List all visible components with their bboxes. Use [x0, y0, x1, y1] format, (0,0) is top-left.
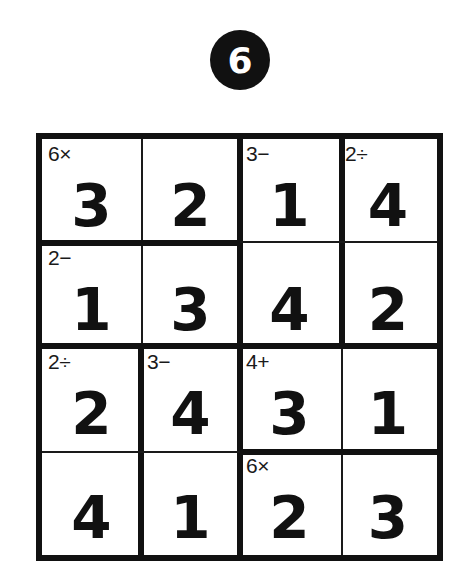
cage-clue: 2÷ — [345, 143, 367, 164]
cell-value: 2 — [339, 281, 437, 339]
cell-value: 3 — [339, 489, 437, 547]
cage-clue: 3− — [147, 351, 170, 372]
cell-value: 1 — [42, 281, 141, 339]
cage-clue: 3− — [246, 143, 269, 164]
cell-r1c3[interactable]: 3− 1 — [240, 139, 339, 243]
cage-clue: 4+ — [246, 351, 269, 372]
cell-value: 2 — [42, 385, 141, 443]
cage-border — [339, 139, 345, 347]
grid-line-thin — [42, 451, 240, 453]
cell-value: 3 — [240, 385, 339, 443]
cage-border — [240, 449, 437, 455]
cell-r1c4[interactable]: 2÷ 4 — [339, 139, 437, 243]
grid-line-thin — [341, 451, 343, 555]
cell-value: 1 — [141, 489, 240, 547]
cell-value: 2 — [240, 489, 339, 547]
cell-value: 4 — [339, 177, 437, 235]
cell-r2c3[interactable]: 4 — [240, 243, 339, 347]
puzzle-number: 6 — [227, 40, 252, 81]
grid-line-thin — [240, 241, 437, 243]
cell-r2c2[interactable]: 3 — [141, 243, 240, 347]
cage-clue: 2− — [48, 247, 71, 268]
grid-line-thin — [341, 347, 343, 451]
cell-r4c3[interactable]: 6× 2 — [240, 451, 339, 555]
cell-value: 3 — [42, 177, 141, 235]
cell-r2c4[interactable]: 2 — [339, 243, 437, 347]
cell-value: 4 — [42, 489, 141, 547]
cell-value: 4 — [240, 281, 339, 339]
cell-r3c2[interactable]: 3− 4 — [141, 347, 240, 451]
cell-r1c2[interactable]: 2 — [141, 139, 240, 243]
cell-value: 4 — [141, 385, 240, 443]
cell-r3c3[interactable]: 4+ 3 — [240, 347, 339, 451]
cell-r4c2[interactable]: 1 — [141, 451, 240, 555]
cage-clue: 2÷ — [48, 351, 70, 372]
cell-value: 2 — [141, 177, 240, 235]
cell-r1c1[interactable]: 6× 3 — [42, 139, 141, 243]
cell-r3c1[interactable]: 2÷ 2 — [42, 347, 141, 451]
cell-r4c1[interactable]: 4 — [42, 451, 141, 555]
cell-r2c1[interactable]: 2− 1 — [42, 243, 141, 347]
cage-clue: 6× — [48, 143, 71, 164]
cell-value: 1 — [339, 385, 437, 443]
cage-border — [42, 343, 437, 349]
cell-value: 1 — [240, 177, 339, 235]
cage-clue: 6× — [246, 455, 269, 476]
cell-r4c4[interactable]: 3 — [339, 451, 437, 555]
cell-value: 3 — [141, 281, 240, 339]
kenken-grid: 6× 3 2 3− 1 2÷ 4 2− 1 3 4 2 2÷ 2 3− 4 4+… — [36, 133, 443, 561]
cell-r3c4[interactable]: 1 — [339, 347, 437, 451]
cage-border — [42, 240, 240, 246]
puzzle-number-badge: 6 — [210, 30, 270, 90]
